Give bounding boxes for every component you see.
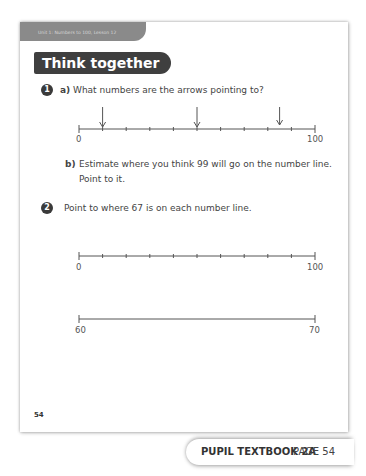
number-line-3-start: 60 [75, 325, 86, 335]
page-label: PAGE 54 [293, 446, 335, 457]
number-line-3 [0, 0, 366, 476]
number-line-3-end: 70 [309, 325, 320, 335]
footer-book-tab: PUPIL TEXTBOOK 2A PAGE 54 [186, 439, 354, 465]
page-number: 54 [34, 411, 44, 419]
